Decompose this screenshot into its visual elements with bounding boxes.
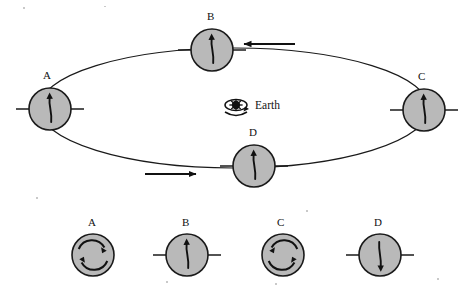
orbit-moon-B[interactable]: B — [178, 10, 246, 71]
choice-label-A: A — [88, 216, 96, 228]
answer-choices-group: ABCD — [72, 216, 414, 276]
earth-group: Earth — [225, 99, 280, 116]
choice-moon-A[interactable]: A — [72, 216, 114, 276]
orbit-moon-D[interactable]: D — [220, 126, 288, 187]
orbit-moon-A[interactable]: A — [16, 69, 84, 130]
earth-rotation-icon — [225, 100, 249, 116]
choice-label-C: C — [277, 216, 284, 228]
diagram-canvas: Earth ABCD ABCD — [0, 0, 468, 290]
earth-label: Earth — [255, 99, 280, 111]
orbit-label-B: B — [207, 10, 214, 22]
orbit-label-D: D — [249, 126, 257, 138]
choice-label-B: B — [182, 216, 189, 228]
moon-orbit-diagram: Earth ABCD ABCD — [0, 0, 468, 290]
orbit-label-A: A — [43, 69, 51, 81]
choice-label-D: D — [374, 216, 382, 228]
choice-moon-C[interactable]: C — [262, 216, 304, 276]
orbit-moon-C[interactable]: C — [390, 70, 458, 131]
orbit-moons-group: ABCD — [16, 10, 458, 187]
choice-moon-B[interactable]: B — [153, 216, 221, 276]
orbit-label-C: C — [418, 70, 425, 82]
choice-moon-D[interactable]: D — [346, 216, 414, 276]
